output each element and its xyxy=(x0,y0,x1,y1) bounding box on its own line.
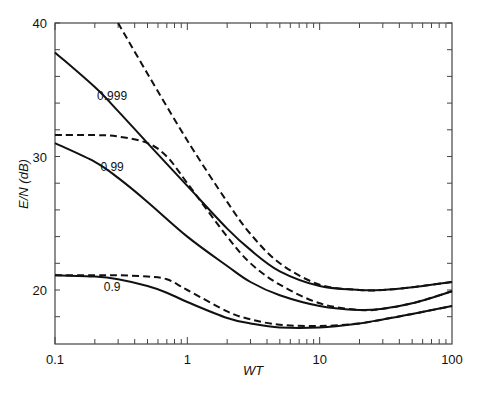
y-axis-title: E/N (dB) xyxy=(16,159,31,209)
y-tick-label: 30 xyxy=(33,150,47,165)
chart-canvas: 0.1110100203040 0.9990.990.9 WT E/N (dB) xyxy=(0,0,481,395)
dashed-curve xyxy=(118,23,452,291)
x-tick-label: 10 xyxy=(312,352,326,367)
plot-border xyxy=(55,23,452,344)
y-tick-label: 20 xyxy=(33,283,47,298)
curve-label: 0.99 xyxy=(100,160,124,174)
axis-ticks: 0.1110100203040 xyxy=(33,16,463,367)
x-tick-label: 0.1 xyxy=(46,352,64,367)
x-tick-label: 100 xyxy=(441,352,463,367)
plot-frame xyxy=(55,23,452,344)
curve-labels: 0.9990.990.9 xyxy=(97,89,127,294)
x-tick-label: 1 xyxy=(184,352,191,367)
x-axis-title: WT xyxy=(243,363,264,378)
curve-label: 0.999 xyxy=(97,89,127,103)
curve-label: 0.9 xyxy=(104,280,121,294)
y-tick-label: 40 xyxy=(33,16,47,31)
